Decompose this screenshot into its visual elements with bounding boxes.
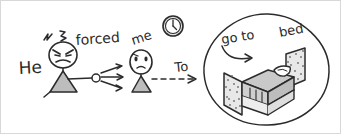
label-he: He bbox=[18, 57, 42, 78]
sketch-canvas: He forced me To go to bed bbox=[0, 0, 341, 134]
label-me: me bbox=[129, 27, 153, 48]
clock-icon bbox=[163, 16, 183, 36]
sad-person-figure bbox=[130, 50, 152, 92]
sketch-drawing: He forced me To go to bed bbox=[0, 0, 341, 134]
label-to: To bbox=[173, 59, 189, 75]
angry-person-figure bbox=[44, 42, 100, 97]
dashed-arrow-icon bbox=[152, 75, 196, 83]
pointing-arrows-icon bbox=[101, 64, 123, 91]
anger-marks-icon bbox=[44, 31, 66, 41]
label-forced: forced bbox=[75, 29, 120, 48]
